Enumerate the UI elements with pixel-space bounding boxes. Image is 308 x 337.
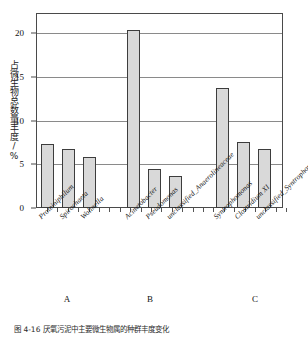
bar <box>127 30 140 208</box>
group-label-a: A <box>57 294 77 304</box>
x-tick-mark <box>120 208 121 212</box>
x-tick-mark <box>57 208 58 212</box>
y-tick-label-5: 5 <box>2 159 24 169</box>
x-tick-mark <box>286 208 287 212</box>
bar <box>216 88 229 208</box>
y-tick-label-20: 20 <box>2 28 24 38</box>
x-tick-mark <box>276 208 277 212</box>
x-tick-mark <box>109 208 110 212</box>
x-tick-mark <box>193 208 194 212</box>
figure-caption: 图 4-16 厌氧污泥中主要微生物属的种群丰度变化 <box>14 325 296 335</box>
y-tick-label-10: 10 <box>2 116 24 126</box>
y-axis-title: 占微生物总数量丰度/% <box>6 44 22 176</box>
y-tick-label-15: 15 <box>2 72 24 82</box>
group-label-c: C <box>245 294 265 304</box>
x-tick-mark <box>78 208 79 212</box>
figure-container: 占微生物总数量丰度/% 0 5 10 15 20 ProteiniphilumS… <box>0 0 308 337</box>
x-tick-mark <box>99 208 100 212</box>
x-tick-mark <box>203 208 204 212</box>
group-label-b: B <box>140 294 160 304</box>
y-tick-label-0: 0 <box>2 203 24 213</box>
